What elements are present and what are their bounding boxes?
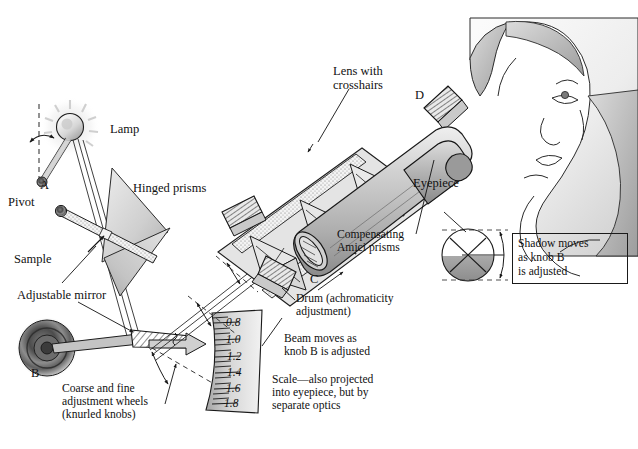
scale-tick-label-4: 1.6 [226, 382, 240, 395]
label-scale-note: Scale—also projected into eyepiece, but … [272, 373, 373, 412]
scale-tick-label-5: 1.8 [224, 397, 238, 410]
label-lens-with-crosshairs: Lens with crosshairs [333, 64, 383, 92]
label-adjustable-mirror: Adjustable mirror [17, 288, 106, 302]
leader-beam-moves [262, 318, 282, 346]
leader-wheels [165, 364, 176, 404]
label-point-c: C [310, 272, 318, 286]
label-sample: Sample [14, 252, 52, 266]
label-beam-moves: Beam moves as knob B is adjusted [284, 332, 370, 358]
eye [561, 91, 568, 98]
label-pivot: Pivot [8, 195, 34, 209]
label-drum: Drum (achromaticity adjustment) [296, 292, 394, 318]
lamp-assembly [30, 97, 100, 187]
label-point-a: A [40, 178, 49, 192]
field-of-view-indicator [442, 212, 508, 281]
label-hinged-prisms: Hinged prisms [133, 181, 206, 195]
prism-hinge [55, 205, 66, 216]
shadow-moves-callout-box: Shadow moves as knob B is adjusted [512, 233, 628, 284]
label-compensating-amici: Compensating Amici prisms [337, 228, 404, 254]
label-coarse-fine-wheels: Coarse and fine adjustment wheels (knurl… [62, 382, 148, 421]
scale-tick-label-0: 0.8 [226, 316, 240, 329]
leader-lens-crosshairs [318, 89, 349, 142]
label-point-d: D [415, 88, 424, 102]
label-point-b: B [31, 366, 39, 380]
refractometer-diagram: Lamp Pivot A Hinged prisms Sample Adjust… [0, 0, 638, 449]
sample-leader [62, 246, 96, 283]
fov-leader [444, 212, 466, 232]
label-eyepiece: Eyepiece [413, 176, 459, 190]
scale-tick-label-1: 1.0 [226, 333, 240, 346]
telescope-body [218, 86, 472, 306]
scale-tick-label-3: 1.4 [227, 366, 241, 379]
scale-tick-label-2: 1.2 [227, 350, 241, 363]
label-lamp: Lamp [110, 122, 139, 136]
drum-knob-d[interactable] [424, 86, 468, 130]
